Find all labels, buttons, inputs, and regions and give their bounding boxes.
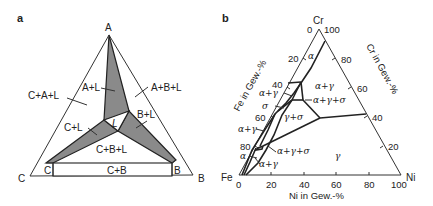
label-alpha-gamma-left: α+γ — [259, 88, 279, 98]
cr-tick-80: 80 — [341, 54, 352, 65]
label-gamma-sigma: γ+σ — [284, 112, 304, 122]
vertex-cr: Cr — [313, 15, 324, 26]
label-c-b: C+B — [107, 165, 127, 176]
label-b-l: B+L — [137, 109, 156, 120]
label-alpha-gamma-sigma-low: α+γ+σ — [277, 146, 311, 156]
fe-tick-20: 20 — [288, 53, 299, 64]
label-l: L — [112, 118, 118, 129]
label-a-b-l: A+B+L — [151, 82, 182, 93]
leader-alpha-gamma-sigma-low — [268, 146, 276, 152]
vertex-fe: Fe — [221, 172, 233, 183]
label-c: C — [44, 165, 51, 176]
cr-tick-60: 60 — [357, 83, 368, 94]
leader-alpha-gamma-mid — [256, 129, 264, 131]
panel-a-label: a — [17, 12, 24, 24]
label-alpha-gamma-mid: α+γ — [238, 124, 258, 134]
ni-tick-100: 100 — [391, 179, 407, 190]
cr-tick-100: 100 — [324, 24, 340, 35]
label-gamma: γ — [335, 151, 341, 161]
ni-tick-80: 80 — [364, 179, 375, 190]
ternary-phase-diagrams: a A C B C+A+L A+L A+B+L C+L L B+L C+B+L … — [0, 0, 433, 206]
label-alpha-gamma-low: α+γ — [259, 159, 279, 169]
ni-tick-0: 0 — [236, 179, 241, 190]
ni-tick-40: 40 — [299, 179, 310, 190]
ni-tick-60: 60 — [331, 179, 342, 190]
label-sigma: σ — [262, 101, 269, 111]
label-b: B — [174, 165, 181, 176]
fe-tick-60: 60 — [255, 112, 266, 123]
panel-b-label: b — [222, 12, 229, 24]
label-a-l: A+L — [82, 82, 101, 93]
cr-axis-title: Cr in Gew.-% — [364, 42, 401, 97]
ni-tick-20: 20 — [266, 179, 277, 190]
panel-a: a A C B C+A+L A+L A+B+L C+L L B+L C+B+L … — [17, 12, 205, 184]
ni-axis-title: Ni in Gew.-% — [289, 190, 344, 201]
label-alpha-gamma-top: α+γ — [315, 81, 335, 91]
label-alpha-low: α — [240, 151, 246, 161]
label-alpha-gamma-sigma-top: α+γ+σ — [313, 95, 347, 105]
fe-tick-0: 0 — [307, 24, 312, 35]
vertex-c: C — [18, 173, 25, 184]
panel-b: b — [221, 12, 415, 201]
vertex-a: A — [105, 22, 112, 33]
label-c-a-l: C+A+L — [28, 90, 60, 101]
label-c-b-l: C+B+L — [96, 144, 128, 155]
vertex-ni: Ni — [406, 172, 415, 183]
cr-tick-40: 40 — [372, 112, 383, 123]
leader-alpha-gamma-top — [284, 93, 292, 96]
vertex-b: B — [198, 173, 205, 184]
cr-tick-20: 20 — [388, 141, 399, 152]
label-alpha-top: α — [308, 51, 314, 61]
label-c-l: C+L — [64, 122, 83, 133]
